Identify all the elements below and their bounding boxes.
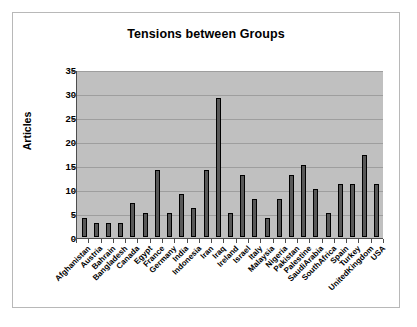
bar-slot [273, 71, 285, 237]
bar-slot [176, 71, 188, 237]
bar-slot [371, 71, 383, 237]
x-axis-tick-mark [273, 239, 274, 243]
bar [326, 213, 331, 237]
bar-slot [346, 71, 358, 237]
x-axis-tick-mark [236, 239, 237, 243]
bar [106, 223, 111, 237]
bar-slot [310, 71, 322, 237]
x-axis-tick-mark [187, 239, 188, 243]
bar-slot [334, 71, 346, 237]
bar-slot [102, 71, 114, 237]
x-axis-tick-mark [88, 239, 89, 243]
bar [130, 203, 135, 237]
x-axis-tick-mark [76, 239, 77, 243]
bar [204, 170, 209, 237]
x-axis-tick-labels: AfghanistanAustriaBahrainBangladeshCanad… [76, 244, 383, 304]
bar-slot [298, 71, 310, 237]
bar [191, 208, 196, 237]
x-axis-tick-mark [174, 239, 175, 243]
bar [313, 189, 318, 237]
x-axis-tick-mark [199, 239, 200, 243]
bar-slot [188, 71, 200, 237]
y-axis-tick-labels: 05101520253035 [48, 71, 76, 239]
plot-area [76, 71, 383, 239]
bar-slot [224, 71, 236, 237]
bar-slot [90, 71, 102, 237]
bar [289, 175, 294, 237]
chart-title: Tensions between Groups [13, 27, 399, 41]
x-axis-tick-mark [137, 239, 138, 243]
x-axis-tick-mark [223, 239, 224, 243]
bar [94, 223, 99, 237]
bar-slot [78, 71, 90, 237]
bar [252, 199, 257, 237]
x-axis-tick-mark [309, 239, 310, 243]
bar-slot [200, 71, 212, 237]
x-axis-tick-mark [334, 239, 335, 243]
bar-slot [115, 71, 127, 237]
x-axis-tick-mark [346, 239, 347, 243]
bar [240, 175, 245, 237]
x-axis-tick-mark [211, 239, 212, 243]
x-axis-tick-mark [150, 239, 151, 243]
bar-slot [261, 71, 273, 237]
x-axis-tick-mark [101, 239, 102, 243]
x-axis-tick-mark [383, 239, 384, 243]
bar [179, 194, 184, 237]
bar [265, 218, 270, 237]
x-axis-tick-mark [371, 239, 372, 243]
x-axis-tick-mark [322, 239, 323, 243]
bar-slot [151, 71, 163, 237]
bar-slot [163, 71, 175, 237]
x-axis-tick-mark [113, 239, 114, 243]
bar [118, 223, 123, 237]
bar-series [78, 71, 383, 237]
bar [374, 184, 379, 237]
bar [82, 218, 87, 237]
bar-slot [322, 71, 334, 237]
x-axis-tick-mark [248, 239, 249, 243]
bar-slot [127, 71, 139, 237]
bar-slot [359, 71, 371, 237]
bar-slot [139, 71, 151, 237]
bar [277, 199, 282, 237]
chart-frame: Tensions between Groups Articles 0510152… [12, 12, 400, 308]
bar [362, 155, 367, 237]
x-axis-tick-mark [125, 239, 126, 243]
bar-slot [249, 71, 261, 237]
bar [167, 213, 172, 237]
x-axis-tick-mark [260, 239, 261, 243]
bar [143, 213, 148, 237]
x-axis-tick-mark [162, 239, 163, 243]
bar [228, 213, 233, 237]
bar-slot [285, 71, 297, 237]
bar [155, 170, 160, 237]
y-axis-title: Articles [21, 101, 33, 161]
x-axis-tick-mark [358, 239, 359, 243]
bar [301, 165, 306, 237]
x-axis-tick-mark [297, 239, 298, 243]
bar-slot [237, 71, 249, 237]
x-axis-tick-mark [285, 239, 286, 243]
bar [338, 184, 343, 237]
bar [350, 184, 355, 237]
plot-wrap [76, 71, 383, 239]
bar [216, 98, 221, 237]
bar-slot [212, 71, 224, 237]
